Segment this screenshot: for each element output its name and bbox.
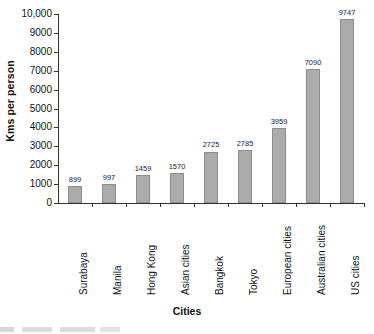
bar-value-label: 9747 xyxy=(339,9,356,17)
y-axis-tick xyxy=(54,184,58,185)
y-axis-tick-label: 3000 xyxy=(30,141,52,151)
bar xyxy=(170,173,184,203)
bars-layer: 8999971459157027252785395970909747 xyxy=(58,14,364,203)
y-axis-tick-label: 7000 xyxy=(30,66,52,76)
x-axis-tick xyxy=(364,203,365,207)
x-axis-category-label: European cities xyxy=(283,226,293,295)
y-axis-tick xyxy=(54,127,58,128)
bar-value-label: 7090 xyxy=(305,59,322,67)
bar xyxy=(238,150,252,203)
x-axis-tick xyxy=(92,203,93,207)
bar-value-label: 2785 xyxy=(237,140,254,148)
y-axis-tick xyxy=(54,146,58,147)
y-axis-tick xyxy=(54,33,58,34)
x-axis-tick xyxy=(194,203,195,207)
x-axis-tick xyxy=(228,203,229,207)
y-axis-tick xyxy=(54,165,58,166)
bar-value-label: 1570 xyxy=(169,163,186,171)
y-axis-tick xyxy=(54,90,58,91)
bar-value-label: 1459 xyxy=(135,165,152,173)
bar xyxy=(68,186,82,203)
y-axis-tick-label: 2000 xyxy=(30,160,52,170)
bar xyxy=(204,152,218,204)
plot-area: 8999971459157027252785395970909747 01000… xyxy=(58,14,364,203)
x-axis-tick xyxy=(330,203,331,207)
bar-chart: Kms per person 8999971459157027252785395… xyxy=(0,0,374,334)
y-axis-title: Kms per person xyxy=(4,36,18,166)
x-axis-tick xyxy=(262,203,263,207)
y-axis-tick-label: 4000 xyxy=(30,122,52,132)
bar xyxy=(306,69,320,203)
x-axis-category-label: Asian cities xyxy=(181,244,191,295)
y-axis-tick-label: 9000 xyxy=(30,28,52,38)
x-axis-category-label: US cities xyxy=(351,256,361,295)
bar-value-label: 899 xyxy=(69,176,82,184)
x-axis-category-label: Hong Kong xyxy=(147,245,157,295)
x-axis-tick xyxy=(126,203,127,207)
y-axis-tick xyxy=(54,203,58,204)
y-axis-tick-label: 5000 xyxy=(30,104,52,114)
x-axis-line xyxy=(58,203,364,204)
bar-value-label: 3959 xyxy=(271,118,288,126)
bar xyxy=(102,184,116,203)
y-axis-tick-label: 10,000 xyxy=(21,9,52,19)
bar-value-label: 997 xyxy=(103,174,116,182)
y-axis-tick xyxy=(54,71,58,72)
x-axis-tick xyxy=(296,203,297,207)
bar xyxy=(272,128,286,203)
y-axis-tick xyxy=(54,14,58,15)
y-axis-tick xyxy=(54,52,58,53)
x-axis-category-label: Tokyo xyxy=(249,269,259,295)
x-axis-title: Cities xyxy=(0,305,374,317)
y-axis-tick-label: 1000 xyxy=(30,179,52,189)
bar xyxy=(340,19,354,203)
x-axis-category-label: Bangkok xyxy=(215,256,225,295)
scan-artifact xyxy=(0,327,120,332)
x-axis-category-label: Manila xyxy=(113,266,123,295)
x-axis-category-label: Australian cities xyxy=(317,225,327,295)
y-axis-tick-label: 8000 xyxy=(30,47,52,57)
x-axis-category-label: Surabaya xyxy=(79,252,89,295)
y-axis-tick xyxy=(54,109,58,110)
bar-value-label: 2725 xyxy=(203,141,220,149)
y-axis-tick-label: 6000 xyxy=(30,85,52,95)
y-axis-tick-label: 0 xyxy=(46,198,52,208)
bar xyxy=(136,175,150,203)
x-axis-tick xyxy=(160,203,161,207)
